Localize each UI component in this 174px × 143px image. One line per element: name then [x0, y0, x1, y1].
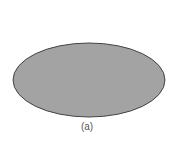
ellipse-shape [13, 43, 165, 117]
figure-caption: (a) [0, 121, 174, 132]
